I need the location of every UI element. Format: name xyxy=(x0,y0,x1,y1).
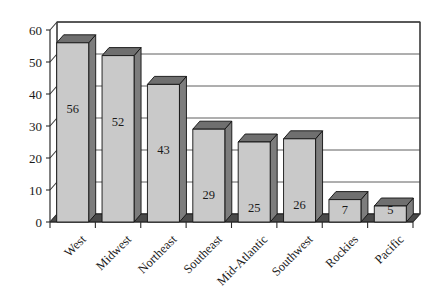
depth-edge-30 xyxy=(50,118,57,126)
category-axis-label: Pacific xyxy=(372,232,407,267)
bar-column: 25 xyxy=(238,134,277,222)
bar-value-label: 26 xyxy=(293,198,306,212)
bar-value-label: 25 xyxy=(248,201,261,215)
category-axis-label: Southeast xyxy=(181,232,226,277)
bar-front-face xyxy=(102,56,134,222)
value-axis-tick-label: 60 xyxy=(29,23,42,38)
chart-canvas: 010203040506057262529435256WestMidwestNo… xyxy=(0,0,442,306)
bar-value-label: 29 xyxy=(203,188,216,202)
bar-top-face xyxy=(329,192,368,200)
value-axis-tick-label: 40 xyxy=(29,87,42,102)
bar-value-label: 5 xyxy=(387,203,393,217)
bar-side-face xyxy=(225,121,232,222)
depth-edge-40 xyxy=(50,86,57,94)
bar-top-face xyxy=(284,131,323,139)
bar-value-label: 7 xyxy=(342,203,348,217)
category-axis-label: Midwest xyxy=(93,232,134,273)
bar-top-face xyxy=(57,35,96,43)
value-axis-tick-label: 20 xyxy=(29,151,42,166)
category-axis-label: West xyxy=(61,232,89,260)
bar-top-face xyxy=(147,76,186,84)
bar-top-face xyxy=(102,48,141,56)
bar-column: 26 xyxy=(284,131,323,222)
bar-value-label: 56 xyxy=(66,102,79,116)
bar-side-face xyxy=(134,48,141,222)
value-axis-tick-label: 30 xyxy=(29,119,42,134)
bar-column: 43 xyxy=(147,76,186,222)
bars-group: 57262529435256 xyxy=(57,35,414,222)
depth-edge-60 xyxy=(50,22,57,30)
bar-front-face xyxy=(193,129,225,222)
category-axis-label: Rockies xyxy=(323,232,361,270)
value-axis: 0102030405060 xyxy=(29,23,50,230)
depth-edge-50 xyxy=(50,54,57,62)
bar-column: 56 xyxy=(57,35,96,222)
bar-side-face xyxy=(270,134,277,222)
bar-top-face xyxy=(374,198,413,206)
value-axis-tick-label: 0 xyxy=(36,215,43,230)
bar-side-face xyxy=(179,76,186,222)
bar-column: 52 xyxy=(102,48,141,222)
bar-front-face xyxy=(57,43,89,222)
category-axis-label: Northeast xyxy=(135,232,180,277)
bar-value-label: 52 xyxy=(112,115,125,129)
category-labels: WestMidwestNortheastSoutheastMid-Atlanti… xyxy=(61,232,406,288)
bar-chart-figure: 010203040506057262529435256WestMidwestNo… xyxy=(0,0,442,306)
bar-column: 29 xyxy=(193,121,232,222)
bar-top-face xyxy=(193,121,232,129)
category-axis-label: Southwest xyxy=(269,232,316,279)
bar-side-face xyxy=(316,131,323,222)
bar-side-face xyxy=(89,35,96,222)
bar-column: 7 xyxy=(329,192,368,222)
depth-edge-20 xyxy=(50,150,57,158)
bar-top-face xyxy=(238,134,277,142)
value-axis-tick-label: 50 xyxy=(29,55,42,70)
depth-edge-10 xyxy=(50,182,57,190)
bar-value-label: 43 xyxy=(157,143,170,157)
bar-column: 5 xyxy=(374,198,413,222)
category-axis xyxy=(50,222,413,228)
value-axis-tick-label: 10 xyxy=(29,183,42,198)
